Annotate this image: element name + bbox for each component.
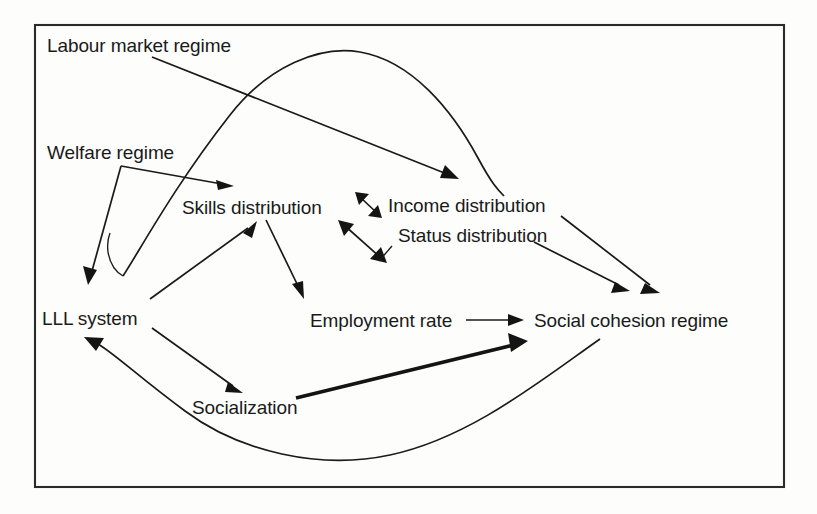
diagram-canvas: Labour market regime Welfare regime Skil… (0, 0, 817, 514)
node-income-distribution: Income distribution (388, 196, 546, 216)
node-socialization: Socialization (192, 398, 297, 418)
arrowhead-employment-to-cohesion (508, 314, 524, 326)
edge-socialization-to-cohesion (296, 345, 514, 398)
node-status-distribution: Status distribution (398, 226, 547, 246)
arrowhead-labour-market-to-income (440, 165, 459, 179)
node-lll-system: LLL system (42, 309, 137, 329)
arrowhead-cohesion-to-lll (84, 337, 104, 351)
edge-welfare-to-skills (121, 166, 222, 184)
node-employment-rate: Employment rate (310, 311, 452, 331)
node-social-cohesion-regime: Social cohesion regime (534, 311, 728, 331)
arrowhead-status-to-cohesion (611, 282, 630, 293)
edge-lll-to-skills (150, 228, 248, 299)
diagram-graphics (0, 0, 817, 514)
node-welfare-regime: Welfare regime (47, 143, 174, 163)
edge-skills-to-employment (266, 220, 299, 288)
edge-lll-to-socialization (152, 328, 233, 386)
arrowhead-skills-to-employment (292, 281, 304, 299)
edge-cohesion-to-lll-arc (98, 339, 600, 460)
arrowhead-welfare-to-skills (216, 180, 234, 190)
edge-status-to-cohesion (534, 242, 619, 285)
edge-top-arc-hook (108, 233, 123, 276)
edge-skills-status-double (344, 225, 381, 258)
node-skills-distribution: Skills distribution (182, 198, 322, 218)
diagram-frame (35, 25, 784, 487)
edge-income-to-cohesion (561, 216, 650, 285)
arrowhead-welfare-to-lll (83, 266, 97, 285)
arrowhead-lll-to-socialization (225, 382, 243, 393)
node-labour-market-regime: Labour market regime (47, 36, 231, 56)
edge-welfare-to-lll (92, 166, 121, 271)
arrowhead-socialization-to-cohesion (508, 333, 528, 352)
arrowhead-skills-status-up (338, 220, 354, 236)
